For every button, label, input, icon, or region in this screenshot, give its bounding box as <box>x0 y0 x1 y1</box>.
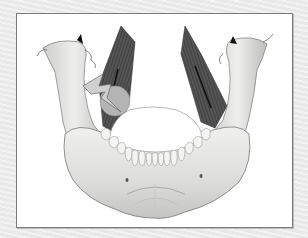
mandible <box>43 38 267 219</box>
right-muscle <box>181 26 227 128</box>
right-ligament <box>219 54 223 64</box>
mandible-illustration <box>17 14 292 227</box>
illustration-panel <box>16 13 293 228</box>
right-ligament-2 <box>263 34 273 42</box>
left-ligament-2 <box>85 50 96 68</box>
